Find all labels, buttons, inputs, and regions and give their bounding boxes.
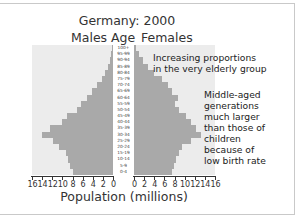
tick-label: 2 (101, 180, 106, 189)
male-bar (73, 169, 114, 175)
female-bar (134, 169, 172, 175)
tick-label: 2 (142, 180, 147, 189)
tick-label: 12 (48, 180, 58, 189)
annotation-line: low birth rate (204, 155, 266, 166)
annotation-line: much larger (204, 111, 266, 122)
tick-label: 0 (111, 180, 116, 189)
age-label: 0-4 (113, 169, 134, 175)
tick-label: 4 (91, 180, 96, 189)
annotation-line: because of (204, 144, 266, 155)
tick-label: 6 (162, 180, 167, 189)
annotation-line: children (204, 133, 266, 144)
males-bars (32, 45, 113, 175)
annotation-line: generations (204, 100, 266, 111)
age-label: Age (111, 30, 135, 45)
tick-label: 12 (190, 180, 200, 189)
tick-label: 14 (38, 180, 48, 189)
annotation-line: in the very elderly group (153, 63, 267, 74)
annotation-line: than those of (204, 122, 266, 133)
tick-label: 16 (27, 180, 37, 189)
tick-label: 10 (58, 180, 68, 189)
chart-title: Germany: 2000 (0, 13, 254, 28)
tick-label: 8 (172, 180, 177, 189)
annotation-elderly: Increasing proportions in the very elder… (153, 52, 267, 74)
tick-label: 8 (70, 180, 75, 189)
annotation-line: Increasing proportions (153, 52, 267, 63)
females-label: Females (141, 30, 193, 45)
annotation-line: Middle-aged (204, 89, 266, 100)
males-label: Males (71, 30, 107, 45)
x-axis-label: Population (millions) (0, 189, 248, 204)
annotation-middle-aged: Middle-agedgenerationsmuch largerthan th… (204, 89, 266, 166)
tick-label: 6 (81, 180, 86, 189)
tick-label: 10 (180, 180, 190, 189)
tick-label: 14 (200, 180, 210, 189)
age-axis: 100+95-9990-9485-8980-8475-7970-7465-696… (113, 45, 134, 175)
tick-label: 0 (132, 180, 137, 189)
tick-label: 16 (210, 180, 220, 189)
tick-label: 4 (152, 180, 157, 189)
